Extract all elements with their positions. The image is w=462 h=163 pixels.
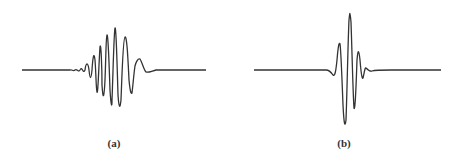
- panel-label-b: (b): [324, 137, 364, 149]
- panel-b: (b): [231, 0, 462, 163]
- panel-a: (a): [0, 0, 231, 163]
- waveform-b: [254, 13, 441, 124]
- waveform-a: [22, 28, 206, 106]
- panel-label-a: (a): [94, 137, 134, 149]
